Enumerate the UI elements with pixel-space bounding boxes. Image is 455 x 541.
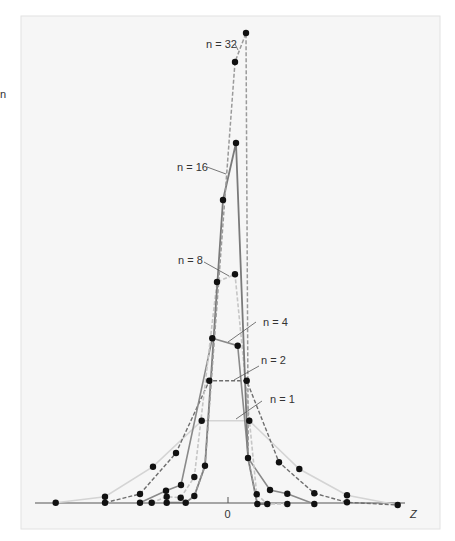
x-axis-label: Z [409, 508, 418, 520]
label-n1: n = 1 [270, 393, 295, 405]
label-n8: n = 8 [178, 254, 203, 266]
x-tick-label-zero: 0 [225, 508, 231, 520]
chart-panel [21, 16, 440, 529]
label-n16: n = 16 [177, 161, 208, 173]
label-n2: n = 2 [261, 354, 286, 366]
label-n4: n = 4 [263, 316, 288, 328]
label-n32: n = 32 [206, 38, 237, 50]
binomial-convergence-chart: 0 Z [0, 0, 455, 541]
